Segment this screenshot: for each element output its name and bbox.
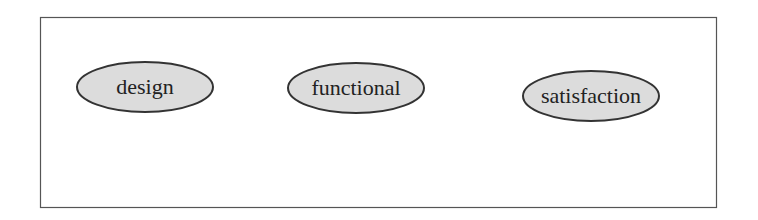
- node-satisfaction: satisfaction: [523, 71, 659, 121]
- node-label-functional: functional: [311, 75, 400, 100]
- diagram-canvas: design functional satisfaction: [0, 0, 758, 220]
- node-functional: functional: [288, 63, 424, 113]
- node-label-satisfaction: satisfaction: [541, 83, 641, 108]
- node-label-design: design: [116, 74, 173, 99]
- node-design: design: [77, 62, 213, 112]
